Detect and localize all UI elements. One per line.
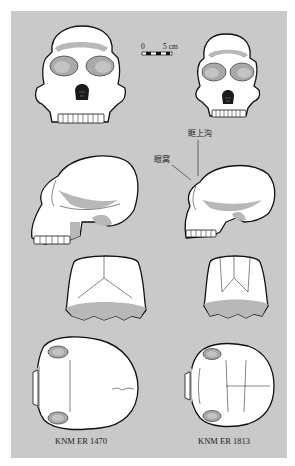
skull-1470-lateral bbox=[32, 156, 138, 244]
scale-label-end: 5 cm bbox=[163, 43, 178, 51]
label-supraorbital-sulcus: 眶上沟 bbox=[188, 130, 212, 138]
caption-knm-er-1813: KNM ER 1813 bbox=[198, 437, 250, 446]
skull-1470-occipital bbox=[66, 256, 146, 320]
caption-knm-er-1470: KNM ER 1470 bbox=[55, 437, 107, 446]
skull-1813-frontal bbox=[196, 34, 260, 117]
skull-illustrations: .bone { fill:#ffffff; stroke:#111; strok… bbox=[0, 0, 295, 466]
scale-bar bbox=[142, 52, 172, 55]
skull-1813-lateral bbox=[185, 166, 275, 238]
skull-1813-occipital bbox=[204, 256, 268, 318]
leader-line-orbit bbox=[172, 165, 191, 180]
label-orbit: 眼窝 bbox=[154, 156, 170, 164]
skull-1470-superior bbox=[33, 337, 138, 430]
skull-1813-superior bbox=[185, 344, 274, 427]
scale-label-start: 0 bbox=[141, 43, 145, 51]
skull-1470-frontal bbox=[36, 26, 126, 123]
